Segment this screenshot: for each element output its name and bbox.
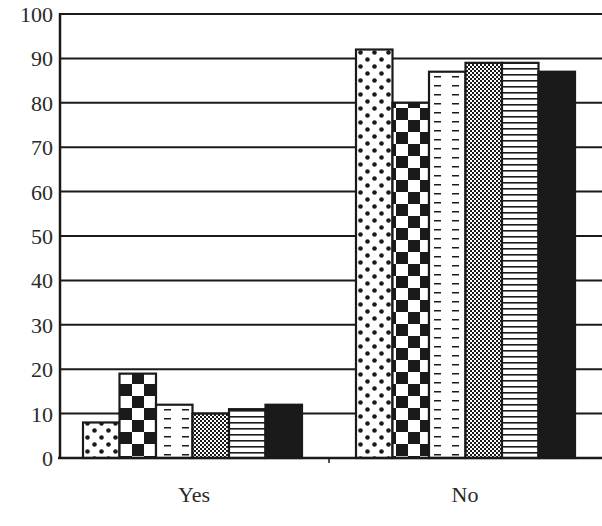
y-tick-label: 80: [31, 91, 53, 116]
bar-no-dots: [356, 50, 393, 458]
bar-yes-checkerboard: [120, 374, 157, 458]
y-tick-label: 0: [42, 446, 53, 471]
x-category-label-yes: Yes: [178, 482, 210, 507]
y-tick-label: 60: [31, 180, 53, 205]
y-tick-label: 20: [31, 357, 53, 382]
bar-no-horizontal-lines: [502, 63, 539, 458]
y-axis-tick-labels: 0102030405060708090100: [20, 2, 53, 471]
x-category-label-no: No: [452, 482, 479, 507]
y-tick-label: 40: [31, 268, 53, 293]
y-tick-label: 70: [31, 135, 53, 160]
bar-yes-horizontal-lines: [229, 409, 266, 458]
bar-yes-dots: [83, 422, 120, 458]
bar-yes-crosshatch: [193, 414, 230, 458]
x-axis-category-labels: YesNo: [178, 482, 478, 507]
bars: [83, 50, 575, 458]
bar-yes-solid-black: [266, 405, 303, 458]
y-tick-label: 50: [31, 224, 53, 249]
bar-yes-dashes: [156, 405, 193, 458]
y-tick-label: 10: [31, 402, 53, 427]
bar-no-checkerboard: [393, 103, 430, 458]
bar-no-solid-black: [539, 72, 576, 458]
bar-no-crosshatch: [466, 63, 503, 458]
y-tick-label: 100: [20, 2, 53, 27]
grouped-bar-chart: 0102030405060708090100 YesNo: [0, 0, 602, 526]
y-tick-label: 30: [31, 313, 53, 338]
bar-no-dashes: [429, 72, 466, 458]
y-tick-label: 90: [31, 46, 53, 71]
